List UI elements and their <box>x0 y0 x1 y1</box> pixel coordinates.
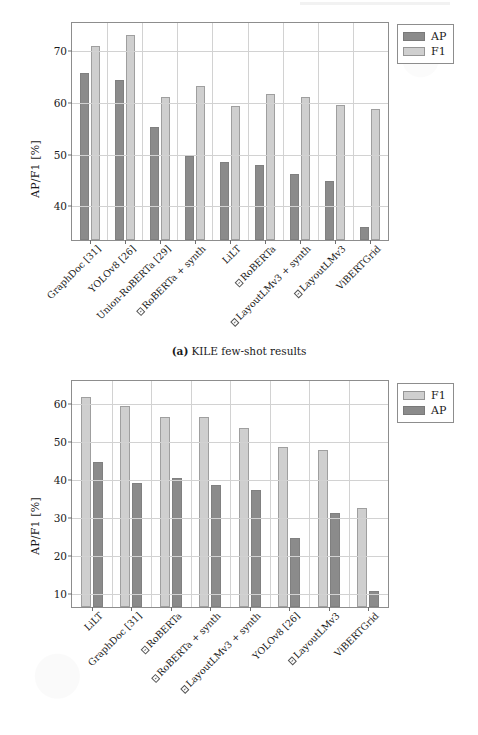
bar-f1 <box>336 105 345 240</box>
x-gridline <box>151 381 152 607</box>
figure-page: AP/F1 [%] 40506070 GraphDoc [31]YOLOv8 [… <box>0 0 478 735</box>
x-gridline <box>230 381 231 607</box>
y-gridline <box>72 103 388 104</box>
x-tick-label-text: LiLT <box>220 243 243 266</box>
figure-lir: AP/F1 [%] 102030405060 LiLTGraphDoc [31]… <box>0 357 478 735</box>
x-gridline <box>248 23 249 240</box>
legend-swatch-f1-icon <box>403 47 425 56</box>
bar-f1 <box>278 447 288 607</box>
legend-lir: F1 AP <box>397 383 454 423</box>
y-axis-label-b: AP/F1 [%] <box>29 497 42 555</box>
legend-entry-f1: F1 <box>403 44 446 59</box>
x-tick-label: LiLT <box>220 243 243 266</box>
figure-kile: AP/F1 [%] 40506070 GraphDoc [31]YOLOv8 [… <box>0 0 478 368</box>
bar-ap <box>290 538 300 607</box>
bar-f1 <box>160 417 170 607</box>
x-tick-label: RoBERTa + synth <box>149 610 223 684</box>
legend-swatch-ap-icon <box>403 32 425 41</box>
bar-ap <box>185 156 194 240</box>
bar-group-kile <box>72 23 388 240</box>
bar-f1 <box>126 35 135 240</box>
legend-kile: AP F1 <box>397 24 454 64</box>
x-tick-label-text: LiLT <box>82 610 105 633</box>
y-tick-mark <box>68 103 72 104</box>
x-gridline <box>177 23 178 240</box>
legend-swatch-f1-icon <box>403 391 425 400</box>
x-tick-label-text: LayoutLMv3 + synth <box>184 610 263 689</box>
x-gridline <box>112 381 113 607</box>
x-gridline <box>353 23 354 240</box>
legend-label-f1: F1 <box>431 45 446 58</box>
axes-lir: 102030405060 <box>71 380 389 608</box>
caption-tag-a: (a) <box>172 345 189 357</box>
y-tick-mark <box>68 593 72 594</box>
x-gridline <box>309 381 310 607</box>
y-tick-mark <box>68 206 72 207</box>
x-tick-label-text: RoBERTa <box>144 610 184 650</box>
x-gridline <box>212 23 213 240</box>
y-tick-mark <box>68 154 72 155</box>
x-gridline <box>318 23 319 240</box>
axes-kile: 40506070 <box>71 22 389 241</box>
legend-entry-ap: AP <box>403 403 446 418</box>
bar-ap <box>251 490 261 607</box>
legend-label-f1: F1 <box>431 389 446 402</box>
legend-swatch-ap-icon <box>403 406 425 415</box>
bar-f1 <box>301 97 310 240</box>
y-tick-mark <box>68 51 72 52</box>
y-tick-mark <box>68 403 72 404</box>
bar-f1 <box>120 406 130 607</box>
bar-ap <box>132 483 142 607</box>
plot-area-lir: AP/F1 [%] 102030405060 LiLTGraphDoc [31]… <box>0 357 478 695</box>
bar-f1 <box>91 46 100 240</box>
y-tick-label: 60 <box>54 398 67 410</box>
bar-ap <box>172 478 182 607</box>
bar-ap <box>255 165 264 240</box>
y-tick-label: 30 <box>54 512 67 524</box>
y-gridline <box>72 206 388 207</box>
bar-f1 <box>266 94 275 240</box>
x-gridline <box>191 381 192 607</box>
bar-ap <box>115 80 124 240</box>
y-tick-mark <box>68 441 72 442</box>
x-gridline <box>283 23 284 240</box>
x-axis-labels-kile: GraphDoc [31]YOLOv8 [26]Union-RoBERTa [2… <box>71 243 478 338</box>
y-tick-label: 50 <box>54 149 67 161</box>
y-tick-label: 60 <box>54 97 67 109</box>
x-tick-label: LiLT <box>82 610 105 633</box>
y-tick-label: 40 <box>54 474 67 486</box>
bar-f1 <box>199 417 209 607</box>
plot-area-kile: AP/F1 [%] 40506070 GraphDoc [31]YOLOv8 [… <box>0 0 478 338</box>
y-axis-label-a: AP/F1 [%] <box>29 140 42 198</box>
legend-entry-f1: F1 <box>403 388 446 403</box>
legend-label-ap: AP <box>431 30 446 43</box>
x-gridline <box>142 23 143 240</box>
bar-f1 <box>231 106 240 240</box>
bar-ap <box>80 73 89 240</box>
y-tick-label: 10 <box>54 588 67 600</box>
legend-entry-ap: AP <box>403 29 446 44</box>
bar-ap <box>360 227 369 240</box>
bar-ap <box>211 485 221 607</box>
bar-ap <box>150 127 159 240</box>
bar-ap <box>93 462 103 607</box>
y-tick-mark <box>68 555 72 556</box>
caption-kile: (a)KILE few-shot results <box>0 345 478 357</box>
x-gridline <box>270 381 271 607</box>
x-gridline <box>349 381 350 607</box>
bar-f1 <box>81 397 91 607</box>
bar-ap <box>325 181 334 240</box>
x-gridline <box>107 23 108 240</box>
bar-ap <box>220 162 229 240</box>
bar-f1 <box>196 86 205 240</box>
y-tick-mark <box>68 517 72 518</box>
y-tick-label: 50 <box>54 436 67 448</box>
x-axis-labels-lir: LiLTGraphDoc [31]RoBERTaRoBERTa + synthL… <box>71 610 478 710</box>
legend-label-ap: AP <box>431 404 446 417</box>
bar-f1 <box>357 508 367 607</box>
y-gridline <box>72 51 388 52</box>
caption-text-a: KILE few-shot results <box>191 345 306 357</box>
y-tick-label: 20 <box>54 550 67 562</box>
bar-f1 <box>161 97 170 240</box>
bar-f1 <box>371 109 380 240</box>
